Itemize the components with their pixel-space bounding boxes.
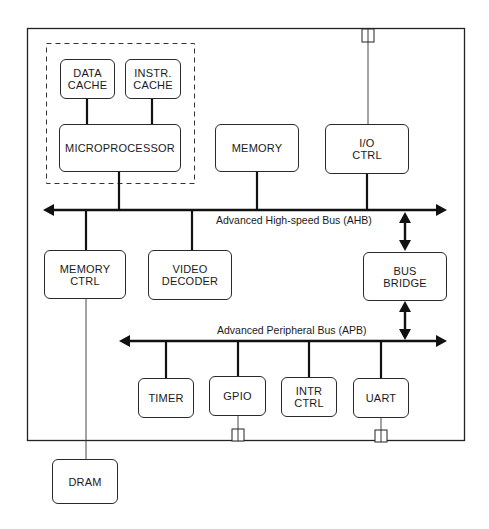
uart-block: UART xyxy=(353,378,409,418)
dram-block: DRAM xyxy=(52,459,118,504)
memory-ctrl-block: MEMORY CTRL xyxy=(44,250,126,299)
intr-ctrl-block: INTR CTRL xyxy=(281,377,337,417)
instr-cache-block: INSTR. CACHE xyxy=(125,59,181,99)
gpio-block: GPIO xyxy=(209,376,266,416)
memory-block: MEMORY xyxy=(215,124,299,172)
video-decoder-block: VIDEO DECODER xyxy=(148,250,232,300)
data-cache-block: DATA CACHE xyxy=(60,59,115,99)
io-ctrl-block: I/O CTRL xyxy=(325,124,409,174)
microprocessor-block: MICROPROCESSOR xyxy=(59,124,181,172)
apb-bus-label: Advanced Peripheral Bus (APB) xyxy=(217,324,366,336)
ahb-bus-label: Advanced High-speed Bus (AHB) xyxy=(216,214,372,226)
timer-block: TIMER xyxy=(138,378,194,418)
bus-bridge-block: BUS BRIDGE xyxy=(363,252,447,301)
